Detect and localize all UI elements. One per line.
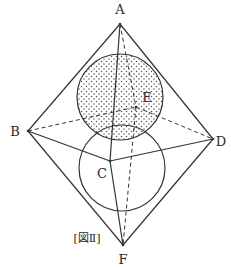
vertex-point-c [109,160,112,163]
vertex-point-d [212,138,215,141]
spheres [77,54,165,211]
vertex-label-d: D [216,134,226,149]
vertex-label-e: E [142,90,152,105]
vertex-point-f [122,244,125,247]
octahedron-diagram: A B C D E F [図Ⅱ] [0,0,231,268]
vertex-label-a: A [114,2,125,17]
vertex-label-c: C [97,166,107,181]
vertex-point-b [27,130,30,133]
vertex-label-f: F [118,252,127,267]
vertex-label-b: B [10,124,20,139]
vertex-point-e [135,106,138,109]
vertex-point-a [119,23,122,26]
figure-container: A B C D E F [図Ⅱ] [0,0,231,268]
figure-caption: [図Ⅱ] [73,232,100,245]
